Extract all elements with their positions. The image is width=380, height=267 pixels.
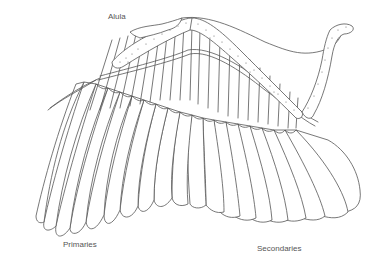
humerus-bone <box>302 24 353 118</box>
secondaries-feathers <box>203 118 360 222</box>
wing-illustration <box>0 0 380 267</box>
label-alula: Alula <box>108 13 126 21</box>
label-secondaries: Secondaries <box>257 245 301 253</box>
wing-diagram: Alula Primaries Secondaries <box>0 0 380 267</box>
label-primaries: Primaries <box>63 241 97 249</box>
